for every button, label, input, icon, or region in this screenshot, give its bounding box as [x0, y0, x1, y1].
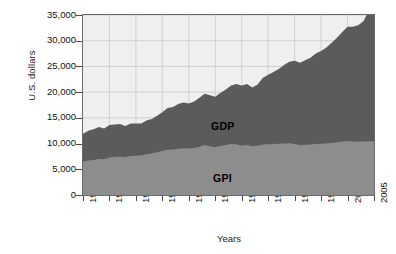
y-tick-label: 5,000 — [28, 163, 76, 174]
y-tick-label: 10,000 — [28, 137, 76, 148]
series-label-gdp: GDP — [211, 120, 235, 132]
y-tick-label: 20,000 — [28, 86, 76, 97]
x-tick-mark — [109, 196, 110, 201]
x-axis-title: Years — [82, 233, 376, 244]
x-tick-mark — [242, 196, 243, 201]
x-tick-mark — [268, 196, 269, 201]
x-tick-mark — [162, 196, 163, 201]
x-tick-mark — [83, 196, 84, 201]
y-tick-label: 0 — [28, 189, 76, 200]
y-tick-label: 25,000 — [28, 60, 76, 71]
x-tick-mark — [295, 196, 296, 201]
x-tick-mark — [136, 196, 137, 201]
x-tick-mark — [215, 196, 216, 201]
y-tick-label: 35,000 — [28, 9, 76, 20]
y-tick-label: 15,000 — [28, 111, 76, 122]
stacked-area-svg — [83, 15, 374, 195]
x-tick-mark — [189, 196, 190, 201]
x-tick-mark — [321, 196, 322, 201]
x-tick-mark — [348, 196, 349, 201]
x-tick-mark — [374, 196, 375, 201]
series-label-gpi: GPI — [213, 172, 232, 184]
chart-figure: U.S. dollars 05,00010,00015,00020,00025,… — [0, 0, 396, 254]
plot-area: GDP GPI — [82, 14, 375, 196]
y-tick-label: 30,000 — [28, 34, 76, 45]
x-tick-label: 2005 — [378, 182, 389, 203]
